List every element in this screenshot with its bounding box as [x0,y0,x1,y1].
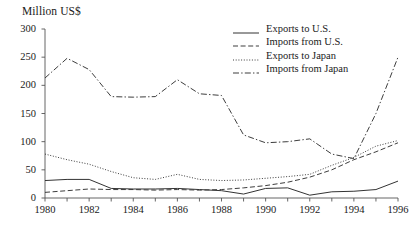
x-tick-label: 1990 [246,205,286,216]
y-tick-label: 200 [6,80,36,91]
legend-item-label: Exports to U.S. [266,24,331,35]
legend-item-label: Imports from Japan [266,64,348,75]
legend-item[interactable]: Exports to Japan [233,49,348,63]
legend-line-swatch [233,51,259,61]
y-tick-label: 100 [6,137,36,148]
x-tick-label: 1986 [157,205,197,216]
legend-item[interactable]: Imports from Japan [233,63,348,77]
y-tick-label: 50 [6,165,36,176]
chart-legend: Exports to U.S.Imports from U.S.Exports … [233,22,348,76]
legend-item-label: Exports to Japan [266,51,336,62]
chart-figure: Million US$ Exports to U.S.Imports from … [0,0,415,234]
y-tick-label: 300 [6,24,36,35]
x-tick-label: 1994 [334,205,374,216]
legend-line-swatch [233,64,259,74]
x-tick-label: 1980 [25,205,65,216]
x-tick-label: 1982 [69,205,109,216]
y-tick-label: 0 [6,193,36,204]
x-tick-label: 1996 [378,205,415,216]
y-tick-label: 150 [6,109,36,120]
legend-line-swatch [233,37,259,47]
line-chart-plot [0,0,415,234]
x-tick-label: 1988 [202,205,242,216]
x-tick-label: 1984 [113,205,153,216]
legend-item[interactable]: Imports from U.S. [233,36,348,50]
series-line [45,141,398,181]
legend-item[interactable]: Exports to U.S. [233,22,348,36]
y-tick-label: 250 [6,52,36,63]
legend-item-label: Imports from U.S. [266,37,343,48]
x-tick-label: 1992 [290,205,330,216]
legend-line-swatch [233,24,259,34]
series-line [45,179,398,195]
